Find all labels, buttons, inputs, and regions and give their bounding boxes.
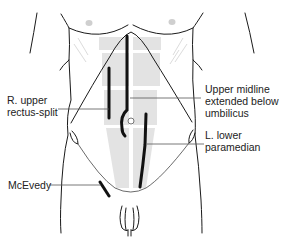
label-r-upper-rectus-split: R. upper rectus-split xyxy=(7,94,58,118)
label-l-lower-paramedian: L. lower paramedian xyxy=(205,129,260,153)
right-nipple xyxy=(86,20,93,26)
label-upper-midline: Upper midline extended below umbilicus xyxy=(205,83,279,119)
left-nipple xyxy=(169,19,176,25)
rib-lines xyxy=(74,38,187,64)
label-mcevedy: McEvedy xyxy=(8,179,51,191)
abdomen-diagram xyxy=(0,0,282,240)
incision-mcevedy xyxy=(100,182,109,196)
umbilicus xyxy=(128,118,134,124)
